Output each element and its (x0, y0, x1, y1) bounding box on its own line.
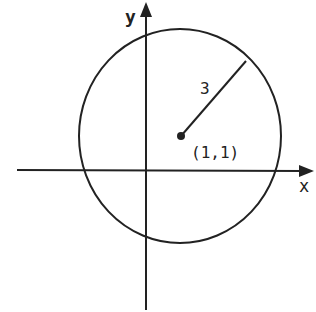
radius-label: 3 (200, 79, 210, 98)
y-axis-arrow-icon (140, 2, 152, 17)
center-label: (1,1) (191, 143, 239, 162)
y-axis-label: y (125, 6, 136, 27)
radius-line (181, 61, 246, 136)
x-axis-label: x (299, 176, 309, 196)
x-axis (17, 170, 304, 171)
center-point (177, 132, 185, 140)
circle-diagram: y x 3 (1,1) (0, 0, 316, 312)
